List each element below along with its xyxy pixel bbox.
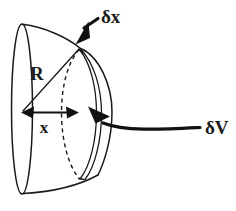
- radius-label: R: [30, 63, 44, 84]
- volume-arrow-head: [88, 107, 110, 124]
- dome-top-edge: [23, 24, 81, 48]
- thickness-arrow-head: [76, 22, 91, 45]
- thickness-label: δx: [101, 6, 121, 27]
- volume-leader-curve: [103, 123, 200, 129]
- disc-bottom-cap: [79, 179, 85, 180]
- distance-label: x: [40, 118, 49, 137]
- distance-arrow-head-left: [21, 107, 34, 119]
- hemisphere-diagram: δx δV R x: [0, 0, 236, 211]
- distance-arrow-head-right: [66, 107, 79, 119]
- figure-root: δx δV R x: [0, 0, 236, 211]
- volume-element-label: δV: [205, 117, 229, 138]
